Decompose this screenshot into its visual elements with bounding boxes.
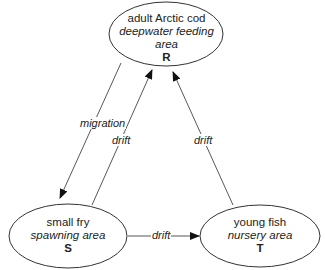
node-S: small fry spawning area S bbox=[9, 216, 127, 255]
edge-migration-arrow bbox=[60, 63, 121, 198]
node-T-subtitle: nursery area bbox=[200, 229, 320, 242]
edge-label-migration: migration bbox=[79, 117, 126, 129]
node-T: young fish nursery area T bbox=[200, 216, 320, 255]
node-R: adult Arctic cod deepwater feeding area … bbox=[109, 12, 224, 64]
node-S-letter: S bbox=[9, 242, 127, 255]
node-S-title: small fry bbox=[9, 216, 127, 229]
edge-label-drift-S-T: drift bbox=[151, 229, 171, 241]
node-R-title: adult Arctic cod bbox=[109, 12, 224, 25]
edge-label-drift-T-R: drift bbox=[193, 134, 213, 146]
node-T-letter: T bbox=[200, 242, 320, 255]
node-R-letter: R bbox=[109, 51, 224, 64]
node-S-subtitle: spawning area bbox=[9, 229, 127, 242]
node-T-title: young fish bbox=[200, 216, 320, 229]
edge-label-drift-S-R: drift bbox=[111, 134, 131, 146]
node-R-subtitle: deepwater feeding area bbox=[109, 25, 224, 51]
